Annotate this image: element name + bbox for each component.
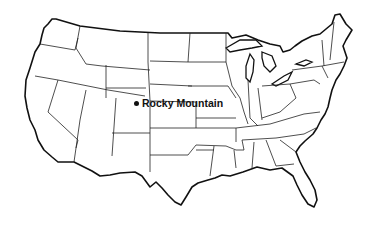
location-label: Rocky Mountain <box>142 97 223 109</box>
us-map-outline <box>0 0 377 236</box>
us-map: Rocky Mountain <box>0 0 377 236</box>
location-marker-dot <box>134 101 139 106</box>
us-coastline <box>25 14 352 207</box>
